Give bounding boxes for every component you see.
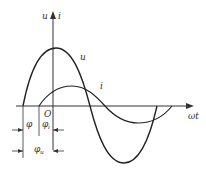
y-label-u: u: [42, 11, 48, 21]
x-label: ωt: [188, 111, 199, 121]
i-curve: [39, 86, 172, 123]
phi-u-right-arrowhead-icon: [53, 149, 58, 153]
phi-arrowhead-icon: [18, 128, 23, 132]
phi-u-subscript: u: [40, 148, 44, 155]
i-curve-label: i: [100, 81, 103, 91]
u-curve-label: u: [80, 52, 86, 62]
y-axis-arrow-icon: [50, 11, 56, 19]
origin-label: O: [44, 109, 52, 119]
y-label-i: i: [58, 11, 61, 21]
phi-i-arrowhead-icon: [53, 128, 58, 132]
x-axis-arrow-icon: [186, 103, 194, 109]
phi-i-subscript: i: [48, 123, 50, 130]
phase-diagram: u i ωt O u i φ φ i φ u: [0, 0, 206, 173]
phi-label: φ: [26, 119, 33, 129]
phi-u-left-arrowhead-icon: [18, 149, 23, 153]
